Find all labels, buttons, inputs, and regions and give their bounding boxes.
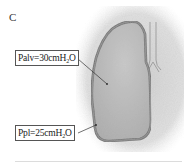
palv-suffix: O xyxy=(69,53,76,63)
palv-point xyxy=(106,83,108,85)
palv-text: Palv=30cmH xyxy=(18,53,66,63)
ppl-point xyxy=(95,124,97,126)
ppl-text: Ppl=25cmH xyxy=(18,128,62,138)
ppl-suffix: O xyxy=(65,128,72,138)
alveolar-pressure-label: Palv=30cmH2O xyxy=(15,50,79,66)
pleural-pressure-label: Ppl=25cmH2O xyxy=(15,125,75,141)
